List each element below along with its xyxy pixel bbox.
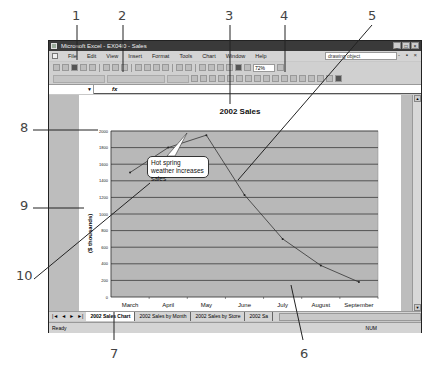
- leader-lines: [0, 0, 432, 372]
